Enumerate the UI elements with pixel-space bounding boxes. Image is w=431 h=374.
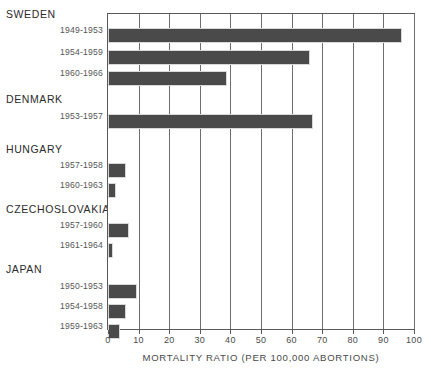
tick-mark-90 (383, 330, 384, 334)
tick-mark-70 (322, 330, 323, 334)
period-label-sweden-1: 1949-1953 (0, 25, 103, 35)
bars-layer (108, 14, 414, 329)
tick-label-50: 50 (256, 335, 267, 345)
tick-label-10: 10 (133, 335, 144, 345)
tick-mark-30 (200, 330, 201, 334)
tick-mark-100 (414, 330, 415, 334)
tick-label-30: 30 (194, 335, 205, 345)
bar-czechoslovakia-1957-1960 (108, 223, 129, 238)
period-label-denmark-1: 1953-1957 (0, 111, 103, 121)
country-label-sweden: SWEDEN (0, 8, 103, 20)
bar-sweden-1954-1959 (108, 50, 310, 65)
period-label-czechoslovakia-1: 1957-1960 (0, 220, 103, 230)
bar-sweden-1960-1966 (108, 71, 227, 86)
category-label-column: SWEDEN 1949-1953 1954-1959 1960-1966 DEN… (0, 0, 107, 374)
bar-japan-1954-1958 (108, 304, 126, 319)
tick-label-60: 60 (286, 335, 297, 345)
x-axis: 0102030405060708090100 (107, 330, 415, 346)
tick-label-100: 100 (406, 335, 422, 345)
period-label-sweden-2: 1954-1959 (0, 47, 103, 57)
tick-mark-10 (139, 330, 140, 334)
tick-label-20: 20 (164, 335, 175, 345)
mortality-ratio-bar-chart: SWEDEN 1949-1953 1954-1959 1960-1966 DEN… (0, 0, 431, 374)
bar-japan-1950-1953 (108, 284, 137, 299)
tick-label-0: 0 (105, 335, 110, 345)
period-label-hungary-1: 1957-1958 (0, 160, 103, 170)
country-label-hungary: HUNGARY (0, 143, 103, 155)
x-axis-title: MORTALITY RATIO (PER 100,000 ABORTIONS) (107, 352, 415, 363)
bar-denmark-1953-1957 (108, 114, 313, 129)
tick-mark-50 (261, 330, 262, 334)
gridline-100 (414, 14, 415, 329)
tick-label-80: 80 (347, 335, 358, 345)
plot-area (107, 13, 415, 330)
tick-mark-60 (292, 330, 293, 334)
period-label-japan-2: 1954-1958 (0, 301, 103, 311)
bar-hungary-1957-1958 (108, 163, 126, 178)
bar-sweden-1949-1953 (108, 28, 402, 43)
country-label-czechoslovakia: CZECHOSLOVAKIA (0, 203, 103, 215)
tick-mark-80 (353, 330, 354, 334)
tick-label-90: 90 (378, 335, 389, 345)
tick-label-40: 40 (225, 335, 236, 345)
tick-mark-20 (169, 330, 170, 334)
period-label-hungary-2: 1960-1963 (0, 180, 103, 190)
tick-mark-40 (230, 330, 231, 334)
tick-mark-0 (108, 330, 109, 334)
country-label-japan: JAPAN (0, 263, 103, 275)
tick-label-70: 70 (317, 335, 328, 345)
period-label-sweden-3: 1960-1966 (0, 68, 103, 78)
bar-czechoslovakia-1961-1964 (108, 243, 113, 258)
period-label-japan-1: 1950-1953 (0, 281, 103, 291)
bar-hungary-1960-1963 (108, 183, 116, 198)
period-label-japan-3: 1959-1963 (0, 321, 103, 331)
period-label-czechoslovakia-2: 1961-1964 (0, 240, 103, 250)
country-label-denmark: DENMARK (0, 93, 103, 105)
